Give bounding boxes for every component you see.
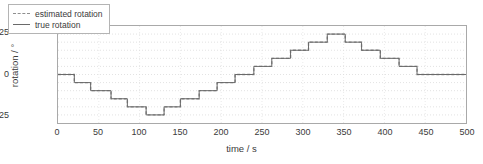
y-tick-label: -25 — [0, 111, 9, 120]
legend-line-icon-estimated — [13, 13, 30, 15]
y-axis-label: rotation / ° — [9, 23, 20, 109]
legend: estimated rotation true rotation — [8, 4, 110, 34]
x-tick-label: 50 — [78, 127, 118, 137]
x-tick-label: 0 — [37, 127, 77, 137]
legend-label-estimated: estimated rotation — [35, 9, 103, 19]
x-tick-label: 500 — [447, 127, 483, 137]
x-tick-label: 450 — [406, 127, 446, 137]
plot-area — [57, 25, 467, 124]
x-tick-label: 400 — [365, 127, 405, 137]
legend-label-true: true rotation — [35, 20, 80, 30]
legend-item-true-rotation[interactable]: true rotation — [13, 19, 103, 30]
legend-item-estimated-rotation[interactable]: estimated rotation — [13, 8, 103, 19]
x-tick-label: 100 — [119, 127, 159, 137]
series-line-true-rotation — [58, 34, 466, 115]
x-axis-label: time / s — [0, 143, 483, 154]
rotation-chart-figure: -25025 050100150200250300350400450500 ro… — [0, 0, 483, 164]
x-tick-label: 300 — [283, 127, 323, 137]
series-line-estimated-rotation — [58, 34, 466, 115]
x-tick-label: 250 — [242, 127, 282, 137]
x-tick-label: 150 — [160, 127, 200, 137]
data-series-layer — [58, 26, 466, 123]
legend-line-icon-true — [13, 24, 30, 26]
x-tick-label: 200 — [201, 127, 241, 137]
x-tick-label: 350 — [324, 127, 364, 137]
